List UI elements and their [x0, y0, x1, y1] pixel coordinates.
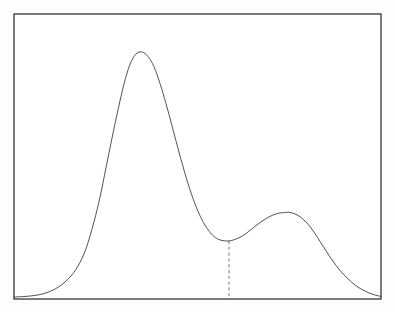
plot-frame: [14, 14, 381, 299]
density-plot-svg: [0, 0, 395, 312]
figure-container: Bimodal probability density curve A smoo…: [0, 0, 395, 312]
